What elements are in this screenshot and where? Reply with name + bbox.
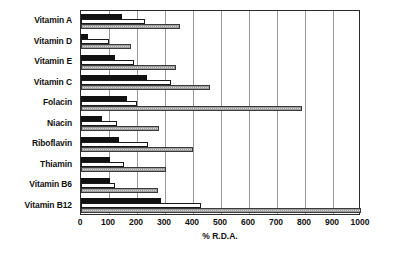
bar-group	[81, 155, 359, 176]
bar-group	[81, 93, 359, 114]
bar-series-3	[81, 167, 166, 172]
chart-root: Vitamin AVitamin DVitamin EVitamin CFola…	[0, 0, 398, 260]
category-label: Vitamin C	[34, 77, 72, 87]
bar-group	[81, 32, 359, 53]
bar-series-3	[81, 188, 158, 193]
category-label: Vitamin D	[34, 36, 72, 46]
bar-series-3	[81, 126, 159, 131]
x-tick-label: 300	[157, 217, 171, 227]
plot-area	[80, 10, 360, 215]
category-label: Vitamin B6	[29, 179, 72, 189]
x-axis-title: % R.D.A.	[80, 231, 360, 241]
category-label: Vitamin B12	[25, 200, 72, 210]
bar-group	[81, 175, 359, 196]
x-tick-label: 100	[101, 217, 115, 227]
category-label: Vitamin A	[34, 15, 72, 25]
category-label: Folacin	[43, 97, 72, 107]
x-tick-label: 700	[269, 217, 283, 227]
bar-series-3	[81, 208, 361, 213]
x-axis-tick-labels: 01002003004005006007008009001000	[80, 217, 360, 229]
bar-group	[81, 134, 359, 155]
bar-series-3	[81, 65, 176, 70]
category-axis-labels: Vitamin AVitamin DVitamin EVitamin CFola…	[0, 10, 76, 215]
x-tick-label: 400	[185, 217, 199, 227]
bar-series-3	[81, 24, 180, 29]
x-tick-label: 200	[129, 217, 143, 227]
x-tick-label: 900	[325, 217, 339, 227]
category-label: Riboflavin	[32, 138, 72, 148]
bar-series-3	[81, 85, 210, 90]
bar-series-3	[81, 44, 131, 49]
x-tick-label: 1000	[351, 217, 370, 227]
category-label: Niacin	[47, 118, 72, 128]
x-tick-label: 500	[213, 217, 227, 227]
bar-rows	[81, 11, 359, 214]
bar-group	[81, 11, 359, 32]
bar-group	[81, 114, 359, 135]
bar-series-3	[81, 106, 302, 111]
x-tick-label: 600	[241, 217, 255, 227]
bar-group	[81, 73, 359, 94]
x-tick-label: 0	[78, 217, 83, 227]
category-label: Vitamin E	[34, 56, 72, 66]
bar-series-3	[81, 147, 193, 152]
category-label: Thiamin	[40, 159, 72, 169]
bar-group	[81, 196, 359, 217]
x-tick-label: 800	[297, 217, 311, 227]
bar-group	[81, 52, 359, 73]
